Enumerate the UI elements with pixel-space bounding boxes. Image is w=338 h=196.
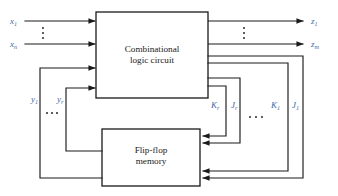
output-vertical-ellipsis: [243, 27, 245, 39]
excitation-label-j1: J1: [292, 100, 299, 111]
state-horizontal-ellipsis: [46, 112, 58, 114]
output-label-z1: z1: [310, 16, 318, 27]
input-wires: [25, 21, 95, 44]
state-label-yr: yr: [56, 94, 64, 105]
sequential-circuit-diagram: Combinational logic circuit Flip-flop me…: [0, 0, 338, 196]
combinational-block-label-line2: logic circuit: [130, 55, 175, 65]
memory-block-label-line2: memory: [136, 156, 167, 166]
excitation-horizontal-ellipsis: [249, 116, 263, 118]
output-wires: [208, 21, 303, 44]
excitation-wires: [203, 56, 303, 178]
output-label-zm: zm: [310, 39, 320, 50]
input-vertical-ellipsis: [42, 27, 44, 39]
excitation-label-jr: Jr: [231, 100, 238, 111]
excitation-label-kr: Kr: [210, 100, 220, 111]
state-feedback-wires: [40, 68, 102, 178]
excitation-label-k1: K1: [270, 100, 280, 111]
diagram-canvas: Combinational logic circuit Flip-flop me…: [0, 0, 338, 196]
excitation-wire-k1: [203, 63, 288, 171]
memory-block-label-line1: Flip-flop: [135, 145, 168, 155]
state-label-y1: y1: [30, 94, 38, 105]
input-label-xn: xn: [9, 39, 17, 50]
input-label-x1: x1: [9, 16, 17, 27]
feedback-wire-y1: [40, 68, 102, 178]
combinational-block-label-line1: Combinational: [125, 44, 180, 54]
